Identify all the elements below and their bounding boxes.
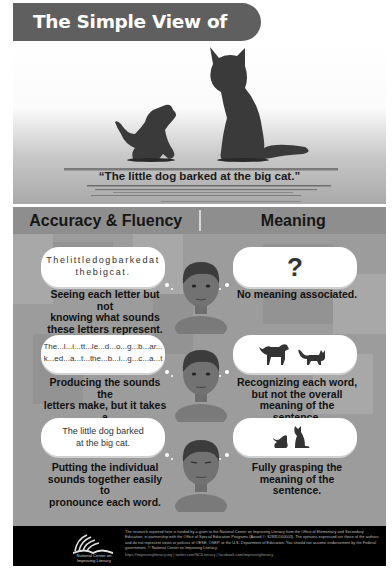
bubble-text: thebigcat. bbox=[43, 266, 163, 278]
thought-dot bbox=[165, 453, 169, 457]
main-panel: Thelittledogbarkedat thebigcat. Seeing e… bbox=[13, 234, 386, 526]
page-title: The Simple View of Reading bbox=[13, 3, 261, 41]
meaning-header: Meaning bbox=[201, 207, 387, 234]
student-face-icon bbox=[173, 434, 229, 512]
accuracy-fluency-header: Accuracy & Fluency bbox=[13, 207, 199, 234]
footer: National Center on Improving Literacy Th… bbox=[13, 526, 386, 566]
row3-left-caption: Putting the individual sounds together e… bbox=[43, 462, 167, 508]
caption-line: No meaning associated. bbox=[235, 289, 359, 301]
thought-bubble-row3-left: The little dog barked at the big cat. bbox=[43, 420, 163, 454]
hero-illustration: “The little dog barked at the big cat.” bbox=[13, 44, 386, 204]
bubble-text: The little dog barked bbox=[43, 420, 163, 437]
divider-line bbox=[113, 192, 293, 193]
divider-line bbox=[91, 195, 301, 196]
disclaimer-text: The research reported here is funded by … bbox=[125, 529, 379, 550]
cat-icon bbox=[298, 349, 325, 365]
student-face-icon bbox=[173, 344, 229, 422]
infographic-poster: The Simple View of Reading “The little d… bbox=[13, 0, 386, 567]
footer-disclaimer: The research reported here is funded by … bbox=[125, 529, 383, 557]
footer-links[interactable]: https://improvingliteracy.org | twitter.… bbox=[125, 552, 383, 557]
thought-bubble-row1-right: ? bbox=[235, 249, 355, 285]
caption-line: these letters represent. bbox=[43, 324, 167, 336]
cat-silhouette-icon bbox=[210, 47, 309, 162]
divider-line bbox=[161, 201, 301, 202]
question-mark-icon: ? bbox=[235, 249, 355, 285]
thought-dot bbox=[165, 283, 169, 287]
thought-bubble-row2-right bbox=[235, 337, 355, 371]
example-sentence: “The little dog barked at the big cat.” bbox=[13, 170, 386, 182]
dog-silhouette-icon bbox=[115, 105, 176, 162]
student-face-icon bbox=[173, 256, 229, 334]
caption-line: pronounce each word. bbox=[43, 497, 167, 509]
bubble-text: at the big cat. bbox=[43, 437, 163, 449]
cat-sitting-icon bbox=[294, 426, 309, 448]
divider-line bbox=[95, 189, 317, 190]
bubble-text: Thelittledogbarkedat bbox=[43, 249, 163, 266]
caption-line: Recognizing each word, bbox=[235, 377, 359, 389]
ncil-logo-text: National Center on Improving Literacy bbox=[63, 553, 125, 563]
thought-bubble-row1-left: Thelittledogbarkedat thebigcat. bbox=[43, 249, 163, 285]
dog-barking-at-cat-icons bbox=[235, 420, 355, 454]
caption-line: Putting the individual bbox=[43, 462, 167, 474]
row1-right-caption: No meaning associated. bbox=[235, 289, 359, 301]
thought-dot bbox=[165, 370, 169, 374]
dog-and-cat-icons bbox=[235, 337, 355, 371]
row2-right-caption: Recognizing each word, but not the overa… bbox=[235, 377, 359, 423]
caption-line: sounds together easily to bbox=[43, 474, 167, 497]
thought-bubble-row3-right bbox=[235, 420, 355, 454]
row3-right-caption: Fully grasping the meaning of the senten… bbox=[235, 462, 359, 497]
caption-line: Seeing each letter but not bbox=[43, 289, 167, 312]
caption-line: Fully grasping the bbox=[235, 462, 359, 474]
bubble-text: k...ed...a...t...the...b...i...g...c...a… bbox=[43, 353, 163, 365]
dog-icon bbox=[259, 344, 289, 365]
bubble-text: The...l...i...tt...le...d...o...g...b...… bbox=[43, 337, 163, 353]
caption-line: knowing what sounds bbox=[43, 312, 167, 324]
dog-barking-icon bbox=[273, 435, 288, 448]
column-headers: Accuracy & Fluency Meaning bbox=[13, 207, 386, 234]
row1-left-caption: Seeing each letter but not knowing what … bbox=[43, 289, 167, 335]
caption-line: Producing the sounds the bbox=[43, 377, 167, 400]
thought-bubble-row2-left: The...l...i...tt...le...d...o...g...b...… bbox=[43, 337, 163, 371]
caption-line: meaning of the sentence. bbox=[235, 474, 359, 497]
logo-text-line: Improving Literacy bbox=[63, 558, 125, 563]
divider-line bbox=[87, 185, 331, 187]
